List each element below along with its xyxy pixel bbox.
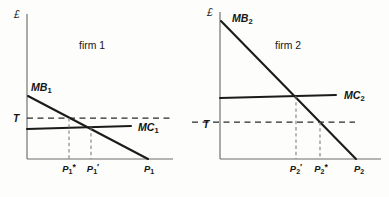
economics-diagram-figure: £ firm 1 T MC1 MB1 P1* P1′ P1 £	[0, 0, 389, 197]
curve-label-mb-firm-1-subscript: 1	[47, 86, 52, 95]
curve-label-mb-firm-2-base: MB	[232, 12, 249, 24]
x-tick-p1-prime: P1′	[87, 162, 99, 177]
x-tick-p2-prime: P2′	[290, 162, 302, 177]
x-tick-p2: P2	[354, 163, 364, 176]
x-tick-p2-subscript: 2	[360, 168, 364, 176]
curve-label-mb-firm-2-subscript: 2	[248, 17, 252, 26]
x-tick-p1-subscript: 1	[150, 168, 154, 176]
two-panel-pollution-tax-diagram: £ firm 1 T MC1 MB1 P1* P1′ P1 £	[0, 0, 389, 197]
curve-label-mc-firm-1: MC1	[138, 121, 159, 135]
x-tick-p1: P1	[144, 163, 154, 176]
x-tick-p1-star: P1*	[62, 162, 76, 177]
curve-label-mb-firm-2: MB2	[232, 12, 253, 26]
curve-label-mb-firm-1-base: MB	[31, 81, 48, 93]
curve-label-mc-firm-1-subscript: 1	[154, 126, 159, 135]
panel-title-firm-2: firm 2	[275, 40, 301, 51]
x-tick-p2-prime-mark: ′	[300, 162, 302, 172]
panel-firm-1: £ firm 1 T MC1 MB1 P1* P1′ P1	[13, 9, 173, 176]
curve-label-mc-firm-2: MC2	[344, 89, 365, 103]
curve-label-mc-firm-2-base: MC	[344, 89, 361, 101]
curve-label-mc-firm-2-subscript: 2	[360, 94, 364, 103]
x-tick-p1-star-mark: *	[72, 162, 76, 172]
curve-label-mc-firm-1-base: MC	[138, 121, 155, 133]
curve-label-mb-firm-1: MB1	[31, 81, 52, 95]
curve-mc-firm-1	[27, 126, 131, 129]
tax-label-firm-1: T	[13, 113, 21, 124]
panel-firm-2: £ firm 2 MC2 T MB2 P2′ P2* P2	[192, 7, 381, 176]
tax-label-firm-2: T	[203, 119, 211, 130]
x-tick-p2-star: P2*	[314, 162, 328, 177]
curve-mc-firm-2	[220, 95, 336, 98]
x-tick-p1-prime-mark: ′	[97, 162, 99, 172]
y-axis-label-firm-2: £	[206, 7, 213, 18]
y-axis-label-firm-1: £	[13, 9, 20, 20]
panel-title-firm-1: firm 1	[79, 40, 105, 51]
x-tick-p2-star-mark: *	[324, 162, 328, 172]
